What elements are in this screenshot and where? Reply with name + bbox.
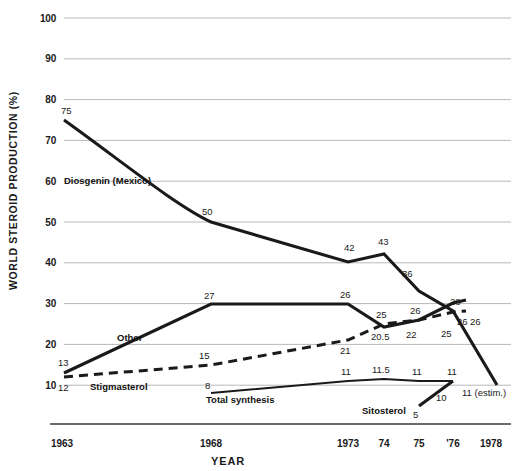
label-stig-25: 25 bbox=[376, 309, 387, 320]
x-tick-1968: 1968 bbox=[200, 438, 223, 449]
series-label-total-synthesis: Total synthesis bbox=[206, 394, 274, 405]
label-diosgenin-26: 26 bbox=[457, 316, 468, 327]
label-stig-21: 21 bbox=[340, 345, 351, 356]
label-stig-12: 12 bbox=[58, 382, 69, 393]
series-label-diosgenin: Diosgenin (Mexico) bbox=[64, 175, 151, 186]
label-ts-11b: 11 bbox=[412, 366, 422, 377]
y-tick-80: 80 bbox=[45, 94, 56, 105]
label-ts-11c: 11 bbox=[447, 366, 457, 377]
x-tick-1963: 1963 bbox=[51, 438, 74, 449]
label-ts-8: 8 bbox=[205, 380, 210, 391]
series-label-sitosterol: Sitosterol bbox=[362, 405, 406, 416]
series-label-stigmasterol: Stigmasterol bbox=[90, 381, 148, 392]
label-sito-5: 5 bbox=[413, 409, 418, 420]
label-diosgenin-42: 42 bbox=[344, 242, 355, 253]
label-ts-115: 11.5 bbox=[372, 364, 390, 375]
series-label-other: Other bbox=[117, 332, 143, 343]
label-other-25: 25 bbox=[441, 328, 452, 339]
y-tick-30: 30 bbox=[45, 298, 56, 309]
y-tick-40: 40 bbox=[45, 257, 56, 268]
label-stig-15: 15 bbox=[199, 350, 210, 361]
label-other-27: 27 bbox=[204, 290, 215, 301]
label-diosgenin-estim: 11 (estim.) bbox=[462, 387, 506, 398]
label-other-13: 13 bbox=[58, 357, 69, 368]
label-ts-11a: 11 bbox=[341, 366, 351, 377]
x-axis-title: YEAR bbox=[211, 455, 245, 467]
y-tick-10: 10 bbox=[45, 380, 56, 391]
steroid-production-chart: 100 90 80 70 60 50 40 30 20 10 WORLD STE… bbox=[0, 0, 520, 471]
label-diosgenin-36: 36 bbox=[402, 268, 413, 279]
label-other-22: 22 bbox=[406, 329, 417, 340]
y-tick-70: 70 bbox=[45, 135, 56, 146]
x-tick-1973: 1973 bbox=[337, 438, 360, 449]
x-tick-74: 74 bbox=[378, 438, 390, 449]
label-other-26a: 26 bbox=[340, 289, 351, 300]
label-diosgenin-50: 50 bbox=[202, 206, 213, 217]
y-tick-60: 60 bbox=[45, 176, 56, 187]
y-tick-50: 50 bbox=[45, 217, 56, 228]
y-tick-100: 100 bbox=[40, 13, 57, 24]
x-tick-75: 75 bbox=[413, 438, 425, 449]
label-diosgenin-43: 43 bbox=[378, 236, 389, 247]
label-other-205: 20.5 bbox=[371, 331, 390, 342]
y-tick-90: 90 bbox=[45, 53, 56, 64]
label-sito-10: 10 bbox=[436, 392, 447, 403]
x-tick-1978: 1978 bbox=[480, 438, 503, 449]
label-stig-28: 28 bbox=[450, 296, 461, 307]
y-tick-20: 20 bbox=[45, 339, 56, 350]
label-stig-26: 26 bbox=[410, 305, 421, 316]
y-axis-title: WORLD STEROID PRODUCTION (%) bbox=[7, 91, 19, 290]
label-other-26b: 26 bbox=[470, 316, 481, 327]
x-tick-76: '76 bbox=[446, 438, 460, 449]
label-diosgenin-75: 75 bbox=[61, 105, 72, 116]
